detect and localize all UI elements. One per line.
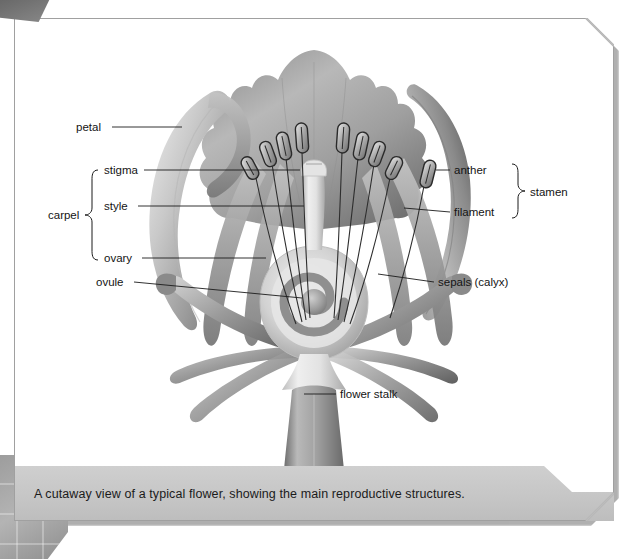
brace-carpel: carpel xyxy=(48,170,98,260)
label-petal: petal xyxy=(76,121,182,133)
label-style-text: style xyxy=(104,200,128,212)
figure-caption-band: A cutaway view of a typical flower, show… xyxy=(14,466,614,521)
label-stigma-text: stigma xyxy=(104,164,138,176)
label-ovary: ovary xyxy=(104,252,266,264)
flower-stalk xyxy=(284,386,344,471)
brace-stamen: stamen xyxy=(512,164,568,218)
figure-caption-text: A cutaway view of a typical flower, show… xyxy=(14,487,465,501)
label-filament-text: filament xyxy=(454,206,495,218)
label-ovule-text: ovule xyxy=(96,276,124,288)
label-anther-text: anther xyxy=(454,164,487,176)
label-petal-text: petal xyxy=(76,121,101,133)
label-stamen-text: stamen xyxy=(530,186,568,198)
label-sepals-text: sepals (calyx) xyxy=(438,276,508,288)
label-carpel-text: carpel xyxy=(48,209,79,221)
label-ovary-text: ovary xyxy=(104,252,132,264)
label-flower-stalk-text: flower stalk xyxy=(340,388,398,400)
label-anther: anther xyxy=(436,164,487,176)
flower-diagram: petal carpel stigma style ovary ovule an… xyxy=(14,18,614,521)
